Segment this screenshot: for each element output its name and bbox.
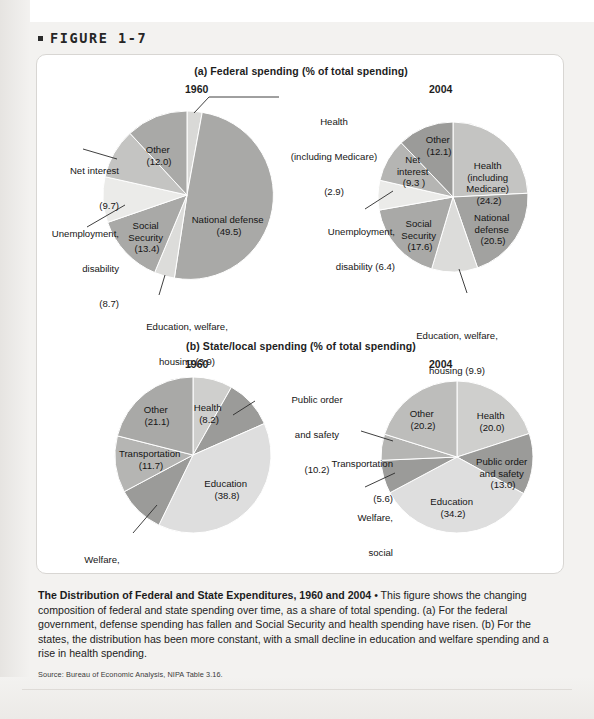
caption-bullet: • bbox=[371, 589, 380, 601]
callout-unemployment-disability-2004: Unemployment, disability (6.4) bbox=[267, 203, 395, 296]
figure-card: (a) Federal spending (% of total spendin… bbox=[36, 54, 564, 574]
callout-unemployment-disability-1960: Unemployment, disability (8.7) bbox=[36, 205, 119, 333]
callout-welfare-state-1960: Welfare, social services (10.0) bbox=[47, 531, 157, 574]
leader-education-1960 bbox=[159, 275, 165, 295]
caption-lead: The Distribution of Federal and State Ex… bbox=[38, 589, 371, 601]
label-health-state-2004: Health (20.0) bbox=[477, 410, 507, 433]
square-bullet-icon bbox=[38, 36, 43, 41]
leader-education-2004 bbox=[459, 269, 467, 293]
label-other-state-1960: Other (21.1) bbox=[144, 404, 171, 427]
bottom-divider bbox=[22, 689, 572, 690]
label-other-state-2004: Other (20.2) bbox=[410, 408, 437, 431]
figure-label-text: FIGURE 1-7 bbox=[50, 30, 147, 46]
page-top-margin bbox=[0, 0, 594, 22]
figure-source: Source: Bureau of Economic Analysis, NIP… bbox=[38, 670, 556, 679]
figure-caption: The Distribution of Federal and State Ex… bbox=[38, 588, 556, 661]
figure-label: FIGURE 1-7 bbox=[38, 30, 572, 46]
callout-welfare-state-2004: Welfare, social services (7.1) bbox=[293, 489, 393, 574]
figure-container: FIGURE 1-7 (a) Federal spending (% of to… bbox=[22, 22, 572, 682]
leader-health-1960 bbox=[194, 97, 279, 113]
label-other-2004: Other (12.1) bbox=[426, 134, 453, 157]
label-other-1960: Other (12.0) bbox=[146, 144, 173, 167]
page-bottom-margin bbox=[0, 677, 594, 719]
